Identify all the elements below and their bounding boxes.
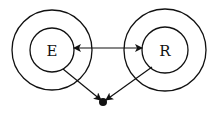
node-E: E (12, 10, 92, 90)
arrow-R-to-sink (106, 67, 152, 100)
diagram-canvas: E R (0, 0, 219, 117)
sink-dot (99, 98, 107, 106)
node-E-label: E (47, 42, 58, 60)
arrow-E-to-sink (63, 69, 101, 100)
diagram: E R (0, 0, 219, 117)
node-R-label: R (159, 42, 171, 60)
